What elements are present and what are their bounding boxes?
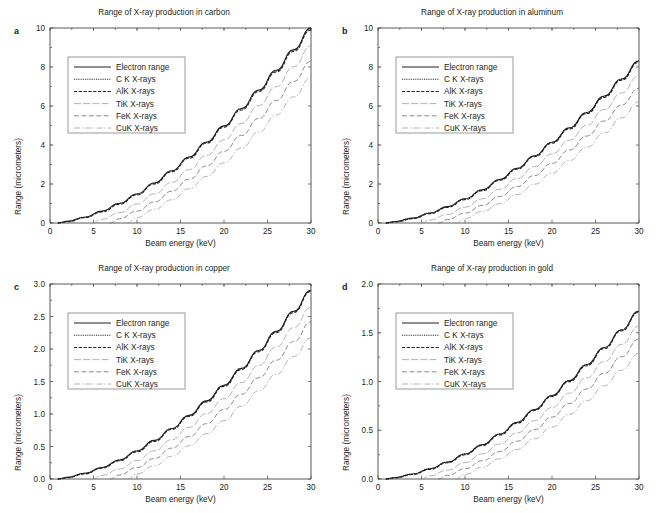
x-tick-label: 5 [91, 227, 96, 236]
legend-label: Electron range [444, 63, 498, 72]
x-tick-label: 20 [547, 483, 557, 492]
y-tick-label: 2 [40, 180, 45, 189]
x-tick-label: 10 [132, 483, 142, 492]
y-tick-label: 10 [364, 24, 374, 33]
x-tick-label: 25 [591, 227, 601, 236]
y-axis-label-a: Range (micrometers) [14, 138, 23, 215]
legend-label: Electron range [116, 319, 170, 328]
y-tick-label: 6 [40, 102, 45, 111]
y-tick-label: 0 [368, 219, 373, 228]
x-tick-label: 15 [504, 227, 514, 236]
legend-label: FeK X-rays [444, 112, 485, 121]
x-tick-label: 5 [419, 483, 424, 492]
y-axis-label-b: Range (micrometers) [342, 138, 351, 215]
y-tick-label: 1.0 [362, 378, 374, 387]
legend-label: FeK X-rays [116, 112, 157, 121]
x-tick-label: 20 [219, 483, 229, 492]
x-tick-label: 10 [460, 227, 470, 236]
x-tick-label: 15 [176, 483, 186, 492]
legend-label: FeK X-rays [116, 368, 157, 377]
y-axis-label-c: Range (micrometers) [14, 394, 23, 471]
x-axis-label-c: Beam energy (keV) [50, 495, 311, 504]
y-tick-label: 2.5 [34, 313, 46, 322]
y-tick-label: 1.5 [362, 329, 374, 338]
legend-label: CuK X-rays [116, 380, 158, 389]
panel-d: d Range of X-ray production in gold 0510… [328, 256, 656, 512]
legend-label: AlK X-rays [116, 87, 155, 96]
legend-label: CuK X-rays [444, 124, 486, 133]
panel-c: c Range of X-ray production in copper 05… [0, 256, 328, 512]
x-tick-label: 15 [504, 483, 514, 492]
plot-svg-c: 0510152025300.00.51.01.52.02.53.0Electro… [0, 256, 328, 512]
x-tick-label: 0 [48, 227, 53, 236]
x-tick-label: 25 [263, 483, 273, 492]
legend-label: Electron range [444, 319, 498, 328]
legend-label: AlK X-rays [116, 343, 155, 352]
x-axis-label-d: Beam energy (keV) [378, 495, 639, 504]
x-tick-label: 30 [634, 483, 644, 492]
y-tick-label: 2 [368, 180, 373, 189]
y-tick-label: 0.0 [34, 475, 46, 484]
x-tick-label: 30 [306, 227, 316, 236]
legend-label: CuK X-rays [444, 380, 486, 389]
y-tick-label: 2.0 [34, 345, 46, 354]
legend-label: C K X-rays [444, 75, 484, 84]
legend-label: AlK X-rays [444, 87, 483, 96]
panel-a: a Range of X-ray production in carbon 05… [0, 0, 328, 256]
x-tick-label: 25 [263, 227, 273, 236]
plot-area-c: 0510152025300.00.51.01.52.02.53.0Electro… [0, 256, 328, 512]
x-tick-label: 5 [419, 227, 424, 236]
x-tick-label: 20 [219, 227, 229, 236]
y-tick-label: 10 [36, 24, 46, 33]
x-axis-label-a: Beam energy (keV) [50, 239, 311, 248]
y-tick-label: 0.5 [362, 426, 374, 435]
legend-label: C K X-rays [116, 75, 156, 84]
plot-area-a: 0510152025300246810Electron rangeC K X-r… [0, 0, 328, 256]
x-tick-label: 0 [48, 483, 53, 492]
legend-label: TiK X-rays [116, 100, 154, 109]
x-tick-label: 0 [376, 483, 381, 492]
y-tick-label: 3.0 [34, 280, 46, 289]
legend-label: CuK X-rays [116, 124, 158, 133]
y-tick-label: 2.0 [362, 280, 374, 289]
x-tick-label: 10 [460, 483, 470, 492]
x-tick-label: 20 [547, 227, 557, 236]
legend-label: C K X-rays [444, 331, 484, 340]
y-tick-label: 6 [368, 102, 373, 111]
plot-svg-a: 0510152025300246810Electron rangeC K X-r… [0, 0, 328, 256]
legend-label: TiK X-rays [444, 100, 482, 109]
y-tick-label: 4 [368, 141, 373, 150]
legend-label: TiK X-rays [116, 356, 154, 365]
y-tick-label: 0 [40, 219, 45, 228]
legend-label: Electron range [116, 63, 170, 72]
legend-label: AlK X-rays [444, 343, 483, 352]
x-tick-label: 25 [591, 483, 601, 492]
x-tick-label: 10 [132, 227, 142, 236]
y-tick-label: 1.5 [34, 378, 46, 387]
plot-svg-d: 0510152025300.00.51.01.52.0Electron rang… [328, 256, 656, 512]
y-tick-label: 0.5 [34, 443, 46, 452]
legend-label: FeK X-rays [444, 368, 485, 377]
x-tick-label: 15 [176, 227, 186, 236]
x-tick-label: 30 [634, 227, 644, 236]
panel-b: b Range of X-ray production in aluminum … [328, 0, 656, 256]
legend-label: C K X-rays [116, 331, 156, 340]
figure-xray-production-range: a Range of X-ray production in carbon 05… [0, 0, 656, 513]
y-tick-label: 0.0 [362, 475, 374, 484]
y-tick-label: 8 [40, 63, 45, 72]
plot-area-d: 0510152025300.00.51.01.52.0Electron rang… [328, 256, 656, 512]
legend-label: TiK X-rays [444, 356, 482, 365]
x-tick-label: 30 [306, 483, 316, 492]
plot-svg-b: 0510152025300246810Electron rangeC K X-r… [328, 0, 656, 256]
plot-area-b: 0510152025300246810Electron rangeC K X-r… [328, 0, 656, 256]
x-tick-label: 0 [376, 227, 381, 236]
y-axis-label-d: Range (micrometers) [342, 394, 351, 471]
y-tick-label: 1.0 [34, 410, 46, 419]
x-tick-label: 5 [91, 483, 96, 492]
y-tick-label: 8 [368, 63, 373, 72]
y-tick-label: 4 [40, 141, 45, 150]
x-axis-label-b: Beam energy (keV) [378, 239, 639, 248]
